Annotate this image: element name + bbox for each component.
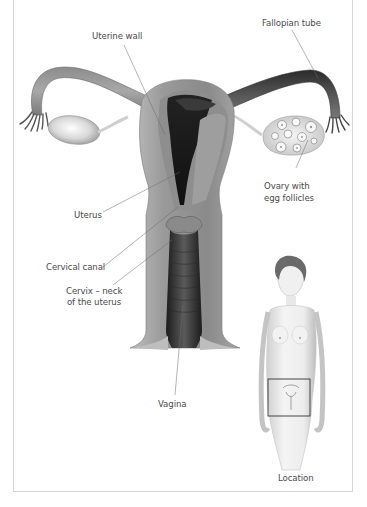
label-cervix-line2: of the uterus [66, 297, 122, 308]
label-ovary-line1: Ovary with [264, 181, 310, 192]
left-ovarian-ligament [98, 117, 128, 132]
location-inset-figure [261, 256, 323, 470]
label-uterus: Uterus [74, 210, 102, 221]
label-ovary-line2: egg follicles [264, 193, 314, 204]
label-fallopian-tube: Fallopian tube [262, 18, 321, 29]
label-location: Location [278, 473, 314, 484]
uterus [130, 80, 240, 350]
label-uterine-wall: Uterine wall [92, 31, 142, 42]
right-ovary [263, 116, 324, 155]
label-cervix-line1: Cervix – neck [66, 286, 122, 297]
label-cervical-canal: Cervical canal [46, 262, 105, 273]
right-ovarian-ligament [234, 116, 262, 135]
left-ovary [46, 113, 101, 148]
reproductive-system-illustration [0, 0, 367, 507]
label-vagina: Vagina [158, 399, 186, 410]
